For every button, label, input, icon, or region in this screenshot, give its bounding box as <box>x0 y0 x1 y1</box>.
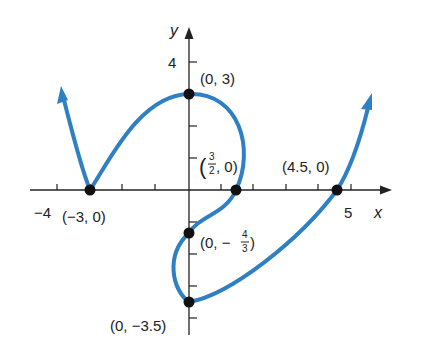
x-tick-neg4: −4 <box>34 204 51 221</box>
svg-text:(: ( <box>199 154 207 179</box>
svg-text:3: 3 <box>242 243 248 254</box>
y-axis-label: y <box>169 22 179 39</box>
x-axis-arrow-icon <box>380 186 392 195</box>
y-axis <box>185 27 198 335</box>
y-axis-arrow-icon <box>185 27 194 39</box>
graph: y x 4 −4 5 (0, 3) (−3, 0) (4.5, 0) (0, −… <box>0 0 424 352</box>
label-0-neg3.5: (0, −3.5) <box>110 317 166 334</box>
x-tick-5: 5 <box>344 204 352 221</box>
label-3half-0: ( 3 2 , 0) <box>199 151 238 179</box>
points <box>85 89 343 308</box>
label-4.5-0: (4.5, 0) <box>282 158 330 175</box>
curve <box>64 94 368 302</box>
svg-text:(0, −: (0, − <box>200 234 231 251</box>
label-0-3: (0, 3) <box>200 70 235 87</box>
point-3half-0 <box>231 185 242 196</box>
y-tick-4: 4 <box>168 54 176 71</box>
svg-text:): ) <box>250 234 255 251</box>
svg-text:2: 2 <box>209 165 215 176</box>
point-0-neg3.5 <box>184 297 195 308</box>
point-neg3-0 <box>85 185 96 196</box>
curve-right-arrow-icon <box>361 93 372 110</box>
svg-text:, 0): , 0) <box>216 158 238 175</box>
svg-text:3: 3 <box>209 151 215 162</box>
point-0-neg4third <box>184 228 195 239</box>
label-neg3-0: (−3, 0) <box>62 208 106 225</box>
svg-text:4: 4 <box>242 229 248 240</box>
x-axis-label: x <box>373 204 383 221</box>
label-0-neg4third: (0, − 4 3 ) <box>200 229 255 254</box>
point-4.5-0 <box>332 185 343 196</box>
point-0-3 <box>184 89 195 100</box>
